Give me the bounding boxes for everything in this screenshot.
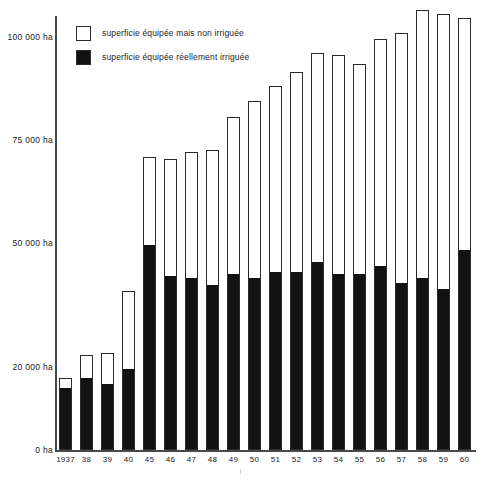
bar-segment-irriguee-53 [312, 262, 323, 449]
bar-1937 [59, 378, 72, 450]
x-tick-51: 51 [271, 455, 280, 464]
x-tick-39: 39 [103, 455, 112, 464]
y-axis-labels: 0 ha20 000 ha50 000 ha75 000 ha100 000 h… [0, 0, 53, 479]
y-tick-75000: 75 000 ha [1, 135, 53, 145]
x-tick-59: 59 [439, 455, 448, 464]
bar-segment-irriguee-57 [396, 283, 407, 449]
bar-segment-irriguee-48 [207, 285, 218, 449]
bar-segment-irriguee-50 [249, 278, 260, 449]
x-axis-labels: 1937383940454647484950515253545556575859… [57, 455, 476, 475]
bar-56 [374, 39, 387, 450]
bar-54 [332, 55, 345, 450]
x-tick-46: 46 [166, 455, 175, 464]
bar-segment-irriguee-54 [333, 274, 344, 449]
bar-segment-irriguee-40 [123, 369, 134, 449]
x-tick-55: 55 [355, 455, 364, 464]
bar-57 [395, 33, 408, 450]
bar-60 [458, 18, 471, 450]
bar-segment-irriguee-39 [102, 384, 113, 449]
bar-55 [353, 64, 366, 450]
bar-segment-irriguee-46 [165, 276, 176, 449]
bar-40 [122, 291, 135, 450]
y-tick-50000: 50 000 ha [1, 238, 53, 248]
bar-segment-irriguee-45 [144, 245, 155, 449]
bar-46 [164, 159, 177, 450]
bar-segment-irriguee-51 [270, 272, 281, 449]
x-tick-58: 58 [418, 455, 427, 464]
x-tick-49: 49 [229, 455, 238, 464]
bar-segment-irriguee-60 [459, 250, 470, 449]
bar-segment-irriguee-59 [438, 289, 449, 449]
x-tick-38: 38 [82, 455, 91, 464]
bar-segment-irriguee-52 [291, 272, 302, 449]
x-tick-60: 60 [460, 455, 469, 464]
x-tick-47: 47 [187, 455, 196, 464]
bar-segment-irriguee-1937 [60, 388, 71, 449]
plot-area [57, 16, 476, 450]
bar-segment-irriguee-56 [375, 266, 386, 449]
x-tick-54: 54 [334, 455, 343, 464]
x-tick-50: 50 [250, 455, 259, 464]
x-axis-line [55, 450, 476, 452]
bar-49 [227, 117, 240, 450]
x-tick-40: 40 [124, 455, 133, 464]
bar-38 [80, 355, 93, 450]
bar-48 [206, 150, 219, 450]
bar-chart-figure: 0 ha20 000 ha50 000 ha75 000 ha100 000 h… [0, 0, 485, 479]
bar-segment-irriguee-47 [186, 278, 197, 449]
bar-59 [437, 14, 450, 450]
bar-53 [311, 53, 324, 450]
bar-51 [269, 86, 282, 450]
bar-segment-irriguee-38 [81, 378, 92, 449]
x-tick-45: 45 [145, 455, 154, 464]
x-tick-57: 57 [397, 455, 406, 464]
x-tick-48: 48 [208, 455, 217, 464]
y-tick-100000: 100 000 ha [1, 32, 53, 42]
x-tick-53: 53 [313, 455, 322, 464]
bar-47 [185, 152, 198, 450]
x-tick-1937: 1937 [56, 455, 75, 464]
y-tick-0: 0 ha [1, 445, 53, 455]
x-tick-52: 52 [292, 455, 301, 464]
x-tick-56: 56 [376, 455, 385, 464]
bar-52 [290, 72, 303, 450]
bar-segment-irriguee-49 [228, 274, 239, 449]
bar-segment-irriguee-55 [354, 274, 365, 449]
bar-45 [143, 157, 156, 450]
bar-50 [248, 101, 261, 450]
print-registration-mark [240, 469, 241, 474]
y-tick-20000: 20 000 ha [1, 362, 53, 372]
bar-39 [101, 353, 114, 450]
bar-58 [416, 10, 429, 450]
bar-segment-irriguee-58 [417, 278, 428, 449]
